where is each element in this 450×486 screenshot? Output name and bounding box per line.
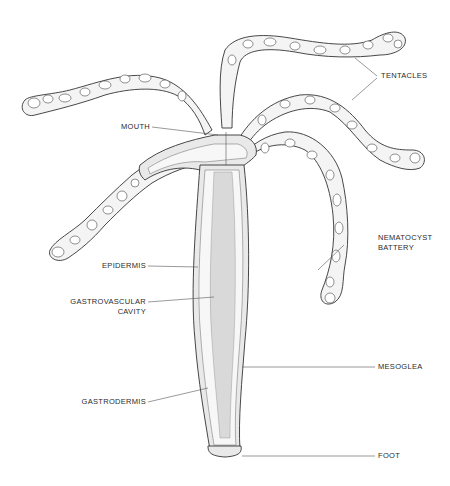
label-gastrovascular-line1: GASTROVASCULAR <box>30 297 146 307</box>
label-foot: FOOT <box>378 451 400 461</box>
tentacle-right-down <box>242 132 348 304</box>
leader-tentacles-1 <box>355 58 377 76</box>
label-nematocyst-line2: BATTERY <box>378 243 414 253</box>
label-tentacles: TENTACLES <box>381 71 427 81</box>
label-gastrodermis: GASTRODERMIS <box>30 397 146 407</box>
tentacle-top <box>220 32 405 128</box>
label-mouth: MOUTH <box>108 122 150 132</box>
label-mesoglea: MESOGLEA <box>378 362 423 372</box>
label-epidermis: EPIDERMIS <box>60 261 146 271</box>
leader-epidermis <box>148 266 198 267</box>
label-gastrovascular-line2: CAVITY <box>30 307 146 317</box>
label-nematocyst-line1: NEMATOCYST <box>378 233 432 243</box>
leader-gastrodermis <box>148 388 208 402</box>
body-column <box>193 165 249 457</box>
hydra-diagram: TENTACLES MOUTH NEMATOCYST BATTERY EPIDE… <box>0 0 450 486</box>
leader-tentacles-2 <box>352 78 377 100</box>
